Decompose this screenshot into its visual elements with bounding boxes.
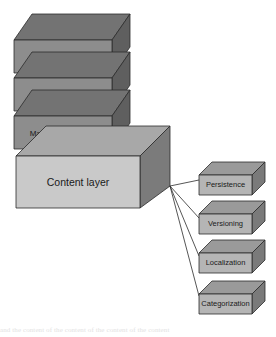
connector-line-localization [170, 186, 199, 256]
architecture-diagram: Client layer Publishing layer Management… [0, 0, 276, 337]
block-localization[interactable]: Localization [199, 240, 265, 273]
categorization-label: Categorization [201, 299, 249, 308]
block-versioning[interactable]: Versioning [199, 201, 265, 234]
connector-line-persistence [170, 180, 199, 186]
diagram-canvas: Client layer Publishing layer Management… [0, 0, 276, 337]
management-layer-top-face [14, 90, 130, 116]
publishing-layer-top-face [14, 52, 130, 78]
client-layer-top-face [14, 14, 130, 40]
block-content-layer[interactable]: Content layer [16, 126, 170, 208]
localization-label: Localization [206, 258, 246, 267]
block-persistence[interactable]: Persistence [199, 162, 265, 195]
block-categorization[interactable]: Categorization [199, 281, 265, 314]
caption-fragment: and the content of the content of the co… [0, 323, 276, 337]
versioning-label: Versioning [208, 219, 243, 228]
content-layer-label: Content layer [47, 176, 110, 188]
persistence-label: Persistence [206, 180, 245, 189]
connector-lines [170, 180, 199, 296]
